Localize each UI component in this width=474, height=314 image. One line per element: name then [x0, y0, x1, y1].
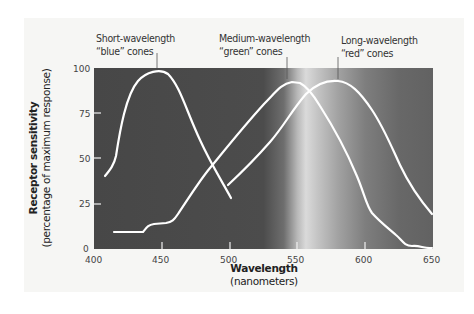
x-tick-450: 450: [152, 255, 169, 265]
y-tick-25: 25: [79, 199, 90, 209]
y-tick-0: 0: [83, 244, 89, 254]
y-tick-75: 75: [79, 109, 90, 119]
annotation-green: Medium-wavelength “green” cones: [219, 32, 310, 58]
y-tick-50: 50: [79, 154, 90, 164]
y-axis-title-main: Receptor sensitivity: [27, 68, 40, 247]
y-axis-title-sub: (percentage of maximum response): [40, 68, 53, 247]
y-tick-100: 100: [73, 64, 90, 74]
x-tick-650: 650: [423, 255, 440, 265]
annotation-green-line1: Medium-wavelength: [219, 32, 310, 45]
annotation-green-line2: “green” cones: [219, 45, 310, 58]
x-tick-400: 400: [85, 255, 102, 265]
x-tick-600: 600: [355, 255, 372, 265]
x-axis-title-main: Wavelength: [230, 262, 298, 275]
annotation-red: Long-wavelength “red” cones: [341, 34, 418, 60]
annotation-blue-line2: “blue” cones: [96, 45, 175, 58]
annotation-red-line2: “red” cones: [341, 47, 418, 60]
annotation-blue: Short-wavelength “blue” cones: [96, 32, 175, 58]
x-axis-title-sub: (nanometers): [230, 275, 298, 288]
x-axis-title: Wavelength (nanometers): [230, 262, 298, 288]
y-axis-title: Receptor sensitivity (percentage of maxi…: [27, 68, 53, 247]
annotation-red-line1: Long-wavelength: [341, 34, 418, 47]
annotation-blue-line1: Short-wavelength: [96, 32, 175, 45]
